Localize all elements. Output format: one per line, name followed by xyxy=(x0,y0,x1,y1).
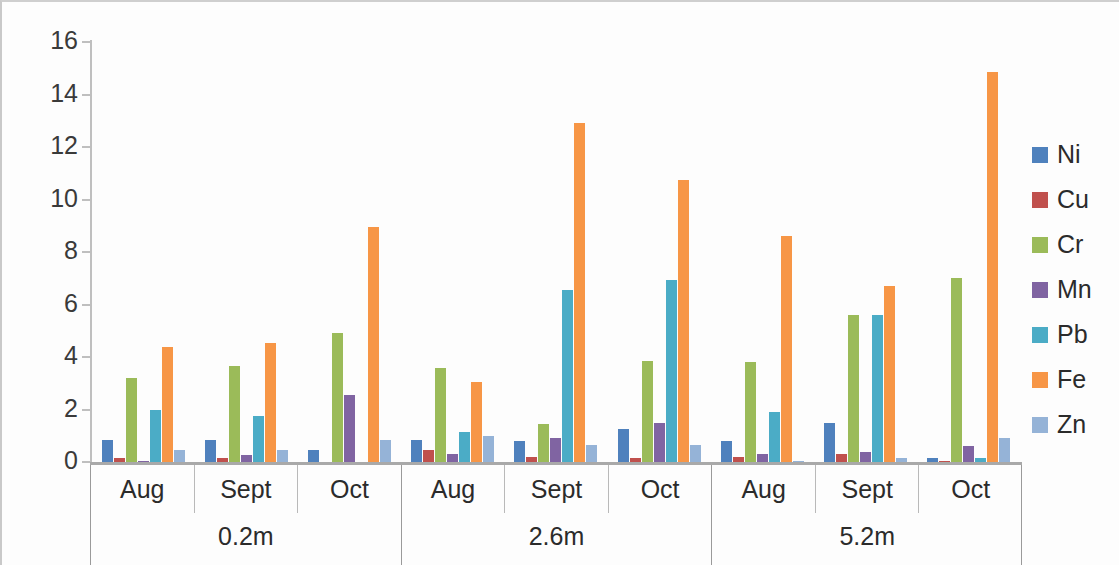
bar-cluster xyxy=(401,42,504,462)
bar-Pb xyxy=(872,315,883,462)
bar-Ni xyxy=(102,440,113,462)
legend-label: Pb xyxy=(1057,322,1088,347)
axis-label-month: Sept xyxy=(194,465,298,513)
axis-label-month: Sept xyxy=(504,465,608,513)
bar-group-0.2m xyxy=(92,42,401,462)
bar-Zn xyxy=(380,440,391,462)
legend-swatch-icon xyxy=(1032,372,1048,388)
bar-Fe xyxy=(781,236,792,462)
axis-label-depth: 5.2m xyxy=(711,513,1022,565)
bar-Cr xyxy=(848,315,859,462)
bar-Zn xyxy=(999,438,1010,462)
legend-label: Fe xyxy=(1057,367,1086,392)
bar-Cr xyxy=(642,361,653,462)
legend-item-Pb[interactable]: Pb xyxy=(1032,312,1117,357)
bar-Mn xyxy=(241,455,252,462)
bar-Pb xyxy=(975,458,986,462)
month-axis-group: AugSeptOct xyxy=(90,465,401,513)
axis-label-month: Oct xyxy=(608,465,712,513)
y-axis-tick-label: 12 xyxy=(28,133,78,158)
y-axis-tick-label: 16 xyxy=(28,28,78,53)
legend-label: Zn xyxy=(1057,412,1086,437)
bar-Zn xyxy=(586,445,597,462)
bar-Mn xyxy=(447,454,458,462)
bar-Ni xyxy=(721,441,732,462)
bar-cluster xyxy=(195,42,298,462)
axis-end-tick-lower xyxy=(1021,513,1022,565)
axis-label-month: Oct xyxy=(918,465,1022,513)
plot-area xyxy=(92,42,1020,462)
bar-Cr xyxy=(229,366,240,462)
bar-Cr xyxy=(435,368,446,463)
bar-cluster xyxy=(917,42,1020,462)
month-axis-group: AugSeptOct xyxy=(711,465,1022,513)
month-axis-tier: AugSeptOctAugSeptOctAugSeptOct xyxy=(90,465,1022,513)
bar-Cr xyxy=(951,278,962,462)
category-axis: AugSeptOctAugSeptOctAugSeptOct 0.2m2.6m5… xyxy=(90,465,1022,565)
y-axis-tick-label: 14 xyxy=(28,81,78,106)
bar-Cu xyxy=(836,454,847,462)
bar-Pb xyxy=(562,290,573,462)
bar-Cu xyxy=(733,457,744,462)
legend-label: Mn xyxy=(1057,277,1092,302)
legend-label: Ni xyxy=(1057,142,1081,167)
legend-item-Zn[interactable]: Zn xyxy=(1032,402,1117,447)
bar-Fe xyxy=(987,72,998,462)
bar-Ni xyxy=(514,441,525,462)
legend-item-Fe[interactable]: Fe xyxy=(1032,357,1117,402)
axis-label-depth: 0.2m xyxy=(90,513,401,565)
bar-Zn xyxy=(690,445,701,462)
legend-swatch-icon xyxy=(1032,282,1048,298)
bar-cluster xyxy=(298,42,401,462)
bar-Cr xyxy=(745,362,756,462)
bar-Mn xyxy=(344,395,355,462)
axis-end-tick-upper xyxy=(1021,465,1022,513)
bar-Ni xyxy=(618,429,629,462)
bar-group-2.6m xyxy=(401,42,710,462)
y-axis-tick-label: 8 xyxy=(28,238,78,263)
bar-Zn xyxy=(896,458,907,462)
bar-Fe xyxy=(678,180,689,462)
y-axis-tick-label: 4 xyxy=(28,343,78,368)
bar-group-5.2m xyxy=(711,42,1020,462)
legend-swatch-icon xyxy=(1032,147,1048,163)
legend-item-Ni[interactable]: Ni xyxy=(1032,132,1117,177)
bar-Zn xyxy=(483,436,494,462)
legend-item-Mn[interactable]: Mn xyxy=(1032,267,1117,312)
bar-Pb xyxy=(253,416,264,462)
bar-Cr xyxy=(126,378,137,462)
month-axis-group: AugSeptOct xyxy=(401,465,712,513)
axis-label-month: Sept xyxy=(815,465,919,513)
axis-label-month: Aug xyxy=(90,465,194,513)
y-axis-tick-label: 0 xyxy=(28,448,78,473)
legend-label: Cu xyxy=(1057,187,1089,212)
bar-Cr xyxy=(538,424,549,462)
bar-Zn xyxy=(277,450,288,462)
bar-Fe xyxy=(574,123,585,462)
bar-Pb xyxy=(666,280,677,462)
bar-Cu xyxy=(423,450,434,462)
y-axis-tick-label: 2 xyxy=(28,396,78,421)
y-axis-tick-label: 6 xyxy=(28,291,78,316)
bar-Zn xyxy=(793,461,804,462)
bar-cluster xyxy=(711,42,814,462)
bar-Mn xyxy=(860,452,871,463)
y-axis-tick-label: 10 xyxy=(28,186,78,211)
legend-item-Cr[interactable]: Cr xyxy=(1032,222,1117,267)
chart-figure: 1614121086420 AugSeptOctAugSeptOctAugSep… xyxy=(0,0,1119,565)
legend-swatch-icon xyxy=(1032,327,1048,343)
bar-Mn xyxy=(550,438,561,462)
bar-Fe xyxy=(162,347,173,463)
legend-swatch-icon xyxy=(1032,192,1048,208)
bar-Cu xyxy=(114,458,125,462)
bar-Fe xyxy=(471,382,482,462)
bar-Fe xyxy=(368,227,379,462)
bar-Fe xyxy=(265,343,276,462)
bar-Ni xyxy=(411,440,422,462)
legend-item-Cu[interactable]: Cu xyxy=(1032,177,1117,222)
legend-label: Cr xyxy=(1057,232,1083,257)
axis-label-depth: 2.6m xyxy=(401,513,712,565)
axis-label-month: Aug xyxy=(401,465,505,513)
legend-swatch-icon xyxy=(1032,417,1048,433)
bar-Mn xyxy=(757,454,768,462)
